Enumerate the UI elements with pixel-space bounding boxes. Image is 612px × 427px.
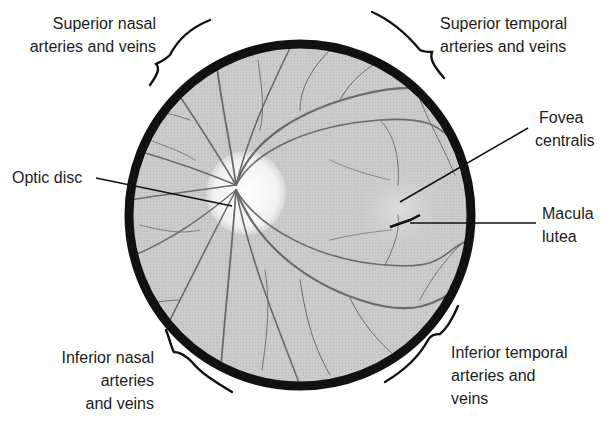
label-line: Optic disc: [12, 166, 102, 189]
label-line: Inferior nasal: [10, 346, 154, 369]
label-line: arteries: [10, 369, 154, 392]
label-line: arteries and veins: [8, 35, 156, 58]
label-line: centralis: [535, 129, 612, 152]
label-line: and veins: [10, 392, 154, 415]
label-fovea-centralis: Fovea centralis: [535, 106, 612, 152]
label-line: lutea: [542, 225, 612, 248]
label-inferior-temporal: Inferior temporal arteries and veins: [451, 341, 611, 410]
label-line: Superior temporal: [440, 12, 610, 35]
label-superior-nasal: Superior nasal arteries and veins: [8, 12, 156, 58]
label-line: Inferior temporal: [451, 341, 611, 364]
label-line: Fovea: [535, 106, 612, 129]
label-line: Macula: [542, 202, 612, 225]
label-line: veins: [451, 387, 611, 410]
label-superior-temporal: Superior temporal arteries and veins: [440, 12, 610, 58]
label-line: Superior nasal: [8, 12, 156, 35]
label-inferior-nasal: Inferior nasal arteries and veins: [10, 346, 154, 415]
label-line: arteries and veins: [440, 35, 610, 58]
label-line: arteries and: [451, 364, 611, 387]
label-optic-disc: Optic disc: [12, 166, 102, 189]
label-macula-lutea: Macula lutea: [542, 202, 612, 248]
macula-region: [345, 160, 455, 260]
